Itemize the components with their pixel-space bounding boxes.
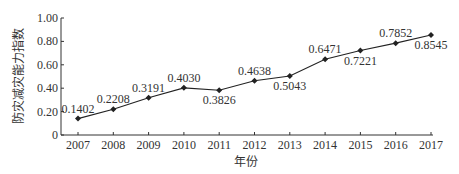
data-point-label: 0.2208 [97,92,130,106]
data-point-marker [252,78,258,84]
data-point-marker [181,85,187,91]
x-tick-label: 2013 [278,138,302,152]
data-point-label: 0.7852 [379,26,412,40]
data-point-label: 0.1402 [62,102,95,116]
x-tick-label: 2011 [207,138,231,152]
line-chart: 00.200.400.600.801.00 200720082009201020… [0,0,459,174]
x-tick-label: 2009 [137,138,161,152]
x-axis-title: 年份 [234,155,258,169]
data-point-marker [322,56,328,62]
x-axis: 2007200820092010201120122013201420152016… [61,132,443,152]
data-point-label: 0.8545 [415,38,448,52]
data-point-marker [146,95,152,101]
y-tick-label: 0.60 [37,58,58,72]
data-point-label: 0.3191 [132,81,165,95]
y-axis-title: 防灾减灾能力指数 [11,28,26,124]
x-tick-label: 2012 [243,138,267,152]
data-point-label: 0.3826 [203,93,236,107]
x-tick-label: 2016 [384,138,408,152]
data-point-marker [393,40,399,46]
y-tick-label: 0.20 [37,105,58,119]
x-tick-label: 2007 [66,138,90,152]
y-tick-label: 0 [52,128,58,142]
x-tick-label: 2017 [419,138,443,152]
y-axis: 00.200.400.600.801.00 [37,11,64,142]
y-tick-label: 0.40 [37,81,58,95]
data-point-label: 0.4030 [167,71,200,85]
data-point-label: 0.5043 [273,79,306,93]
data-point-label: 0.6471 [309,42,342,56]
y-tick-label: 1.00 [37,11,58,25]
x-tick-label: 2015 [348,138,372,152]
data-point-label: 0.7221 [344,54,377,68]
data-point-marker [75,116,81,122]
data-point-label: 0.4638 [238,64,271,78]
x-tick-label: 2014 [313,138,337,152]
data-point-marker [110,106,116,112]
data-labels: 0.14020.22080.31910.40300.38260.46380.50… [62,26,448,115]
x-tick-label: 2008 [101,138,125,152]
y-tick-label: 0.80 [37,34,58,48]
x-tick-label: 2010 [172,138,196,152]
